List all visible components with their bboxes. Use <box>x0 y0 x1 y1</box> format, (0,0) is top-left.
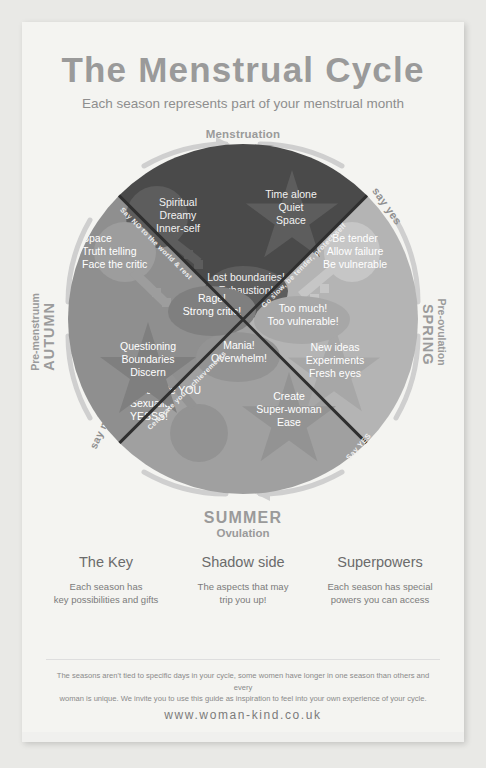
footer-divider <box>46 659 440 660</box>
legend-column-superpowers: Superpowers Each season has special powe… <box>312 554 448 606</box>
legend-heading: The Key <box>38 554 174 570</box>
website-url[interactable]: www.woman-kind.co.uk <box>22 708 464 722</box>
season-label-spring: Pre-ovulation SPRING <box>420 298 448 365</box>
legend-column-shadow-side: Shadow side The aspects that may trip yo… <box>175 554 311 606</box>
legend-body: The aspects that may trip you up! <box>175 580 311 606</box>
legend-heading: Shadow side <box>175 554 311 570</box>
page-title: The Menstrual Cycle <box>22 50 464 90</box>
page-subtitle: Each season represents part of your mens… <box>22 96 464 111</box>
legend-body: Each season has key possibilities and gi… <box>38 580 174 606</box>
legend-heading: Superpowers <box>312 554 448 570</box>
legend-body: Each season has special powers you can a… <box>312 580 448 606</box>
season-label-autumn: Pre-menstruum AUTUMN <box>29 293 57 371</box>
spring-small-label: Pre-ovulation <box>436 298 448 365</box>
poster: The Menstrual Cycle Each season represen… <box>22 22 464 742</box>
summer-star-text: Create Super-woman Ease <box>234 390 344 429</box>
legend-column-the-key: The Key Each season has key possibilitie… <box>38 554 174 606</box>
footer-bar <box>22 732 464 742</box>
summer-season-name: SUMMER <box>22 509 464 527</box>
footer-disclaimer: The seasons aren't tied to specific days… <box>50 670 436 705</box>
autumn-big-label: AUTUMN <box>41 293 57 371</box>
legend-columns: The Key Each season has key possibilitie… <box>38 554 448 646</box>
spring-big-label: SPRING <box>420 298 436 365</box>
cycle-wheel: Spiritual Dreamy Inner-self Time alone Q… <box>68 144 418 494</box>
autumn-small-label: Pre-menstruum <box>29 293 41 371</box>
summer-phase-label: Ovulation <box>22 527 464 539</box>
